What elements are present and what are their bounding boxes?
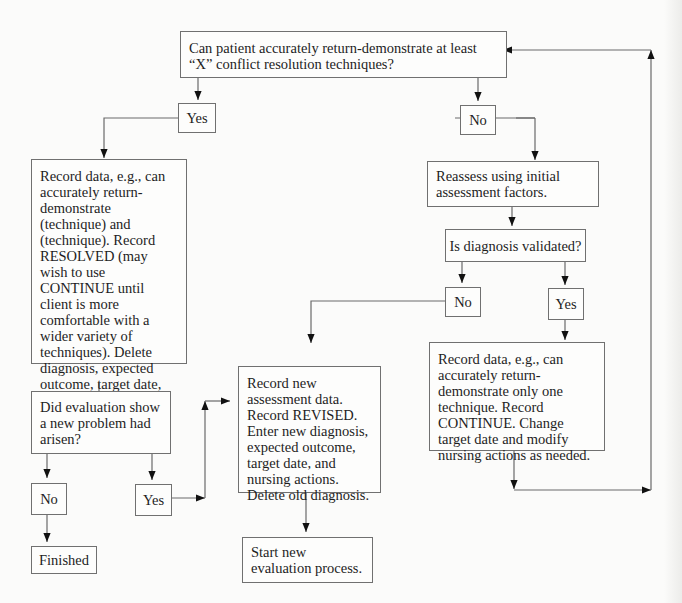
action-record-resolved-text: Record data, e.g., can accurately return… [40,168,165,408]
action-record-revised: Record new assessment data. Record REVIS… [238,366,381,493]
decision-return-demonstrate-text: Can patient accurately return-demonstrat… [189,40,477,72]
yes-label-3-text: Yes [143,492,164,508]
decision-return-demonstrate: Can patient accurately return-demonstrat… [180,31,507,78]
no-label-1-text: No [469,112,487,128]
decision-new-problem-text: Did evaluation show a new problem had ar… [40,399,160,447]
terminal-finished-text: Finished [39,552,89,568]
yes-label-2: Yes [548,288,584,320]
terminal-finished: Finished [31,546,97,574]
no-label-3: No [31,483,67,515]
no-label-3-text: No [40,491,58,507]
yes-label-1-text: Yes [186,110,207,126]
terminal-start-new-evaluation: Start new evaluation process. [242,537,373,583]
no-label-2: No [445,287,481,317]
no-label-1: No [460,105,496,135]
yes-label-3: Yes [135,484,172,516]
action-record-resolved: Record data, e.g., can accurately return… [31,159,187,364]
decision-new-problem: Did evaluation show a new problem had ar… [31,391,171,454]
action-record-continue: Record data, e.g., can accurately return… [429,342,605,451]
yes-label-2-text: Yes [555,296,576,312]
decision-diagnosis-validated: Is diagnosis validated? [445,229,586,262]
yes-label-1: Yes [178,103,216,133]
action-record-revised-text: Record new assessment data. Record REVIS… [247,375,369,503]
action-reassess: Reassess using initial assessment factor… [427,161,599,207]
action-record-continue-text: Record data, e.g., can accurately return… [438,351,590,463]
action-reassess-text: Reassess using initial assessment factor… [436,168,560,200]
decision-diagnosis-validated-text: Is diagnosis validated? [449,238,581,254]
terminal-start-new-evaluation-text: Start new evaluation process. [251,544,362,576]
no-label-2-text: No [454,294,472,310]
